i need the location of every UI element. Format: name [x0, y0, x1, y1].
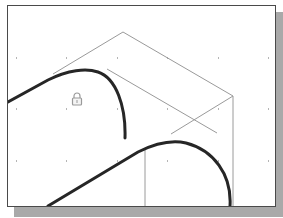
construction-lines — [53, 32, 233, 206]
upper-arc-curve — [8, 70, 125, 138]
grid-dots — [16, 57, 269, 162]
sketch-viewport[interactable] — [7, 5, 276, 207]
profile-curves — [8, 70, 230, 206]
sketch-canvas[interactable] — [8, 6, 275, 206]
lock-icon[interactable] — [71, 92, 83, 106]
lower-arc-curve — [48, 142, 230, 206]
